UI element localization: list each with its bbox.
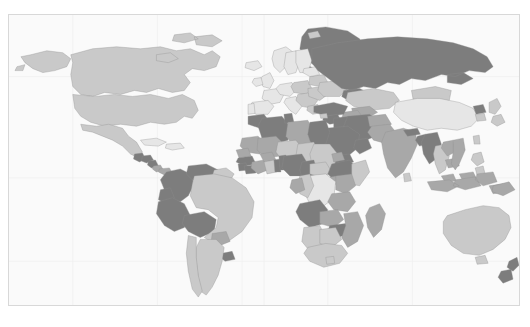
country-region[interactable] bbox=[308, 120, 330, 146]
world-map-svg bbox=[9, 15, 519, 305]
country-region[interactable] bbox=[475, 113, 486, 121]
world-map-figure bbox=[0, 0, 530, 327]
country-region[interactable] bbox=[248, 103, 255, 114]
map-plot-frame bbox=[8, 14, 520, 306]
country-region[interactable] bbox=[320, 113, 328, 118]
country-region[interactable] bbox=[473, 135, 480, 144]
